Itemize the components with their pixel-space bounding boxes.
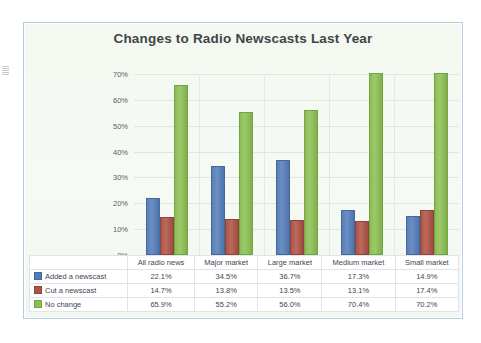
- plot-area: 0%10%20%30%40%50%60%70%: [134, 74, 459, 255]
- table-cell-value: 13.1%: [322, 284, 395, 298]
- table-column-header: Medium market: [322, 256, 395, 270]
- legend-entry: Added a newscast: [30, 270, 128, 284]
- table-row: Added a newscast22.1%34.5%36.7%17.3%14.9…: [30, 270, 459, 284]
- table-cell-value: 17.4%: [395, 284, 458, 298]
- legend-label: No change: [45, 300, 81, 309]
- bar-group: [199, 74, 264, 255]
- bar: [225, 219, 239, 255]
- bar: [146, 198, 160, 255]
- y-axis-tick-label: 70%: [113, 70, 128, 79]
- table-cell-value: 17.3%: [322, 270, 395, 284]
- table-body: Added a newscast22.1%34.5%36.7%17.3%14.9…: [30, 270, 459, 312]
- y-axis-tick-label: 50%: [113, 121, 128, 130]
- bar: [434, 73, 448, 255]
- scan-artifact: [2, 66, 9, 75]
- legend-label: Cut a newscast: [45, 286, 96, 295]
- bar-groups: [134, 74, 459, 255]
- table-column-header: All radio news: [128, 256, 195, 270]
- table-column-header: Major market: [195, 256, 258, 270]
- bar: [290, 220, 304, 255]
- y-axis-tick-label: 10%: [113, 225, 128, 234]
- y-axis-tick-label: 40%: [113, 147, 128, 156]
- chart-title: Changes to Radio Newscasts Last Year: [24, 31, 462, 46]
- bar: [276, 160, 290, 255]
- bar: [160, 217, 174, 255]
- bar: [341, 210, 355, 255]
- table-cell-value: 34.5%: [195, 270, 258, 284]
- bar: [420, 210, 434, 255]
- bar: [406, 216, 420, 255]
- bar: [239, 112, 253, 255]
- y-axis-tick-label: 60%: [113, 95, 128, 104]
- table-cell-value: 13.8%: [195, 284, 258, 298]
- bar: [355, 221, 369, 255]
- y-axis-tick-label: 30%: [113, 173, 128, 182]
- bar: [304, 110, 318, 255]
- chart-data-table: All radio newsMajor marketLarge marketMe…: [29, 255, 459, 312]
- table-cell-value: 70.2%: [395, 298, 458, 312]
- table-cell-value: 14.7%: [128, 284, 195, 298]
- legend-entry: No change: [30, 298, 128, 312]
- table-cell-value: 22.1%: [128, 270, 195, 284]
- bar-group: [394, 74, 459, 255]
- bar: [369, 73, 383, 255]
- legend-swatch-icon: [34, 300, 42, 308]
- table-column-header: Small market: [395, 256, 458, 270]
- table-row: Cut a newscast14.7%13.8%13.5%13.1%17.4%: [30, 284, 459, 298]
- legend-entry: Cut a newscast: [30, 284, 128, 298]
- y-axis-tick-label: 20%: [113, 199, 128, 208]
- table-corner-cell: [30, 256, 128, 270]
- bar: [174, 85, 188, 255]
- legend-swatch-icon: [34, 286, 42, 294]
- legend-label: Added a newscast: [45, 272, 106, 281]
- table-column-header: Large market: [258, 256, 322, 270]
- table-cell-value: 13.5%: [258, 284, 322, 298]
- table-cell-value: 36.7%: [258, 270, 322, 284]
- legend-swatch-icon: [34, 272, 42, 280]
- bar-group: [329, 74, 394, 255]
- table-cell-value: 56.0%: [258, 298, 322, 312]
- chart-frame: Changes to Radio Newscasts Last Year 0%1…: [23, 22, 463, 319]
- bar-group: [134, 74, 199, 255]
- table-cell-value: 55.2%: [195, 298, 258, 312]
- chart-screenshot: Changes to Radio Newscasts Last Year 0%1…: [0, 0, 481, 343]
- table-row: No change65.9%55.2%56.0%70.4%70.2%: [30, 298, 459, 312]
- table-header-row: All radio newsMajor marketLarge marketMe…: [30, 256, 459, 270]
- table-cell-value: 70.4%: [322, 298, 395, 312]
- table-cell-value: 14.9%: [395, 270, 458, 284]
- table-cell-value: 65.9%: [128, 298, 195, 312]
- bar-group: [264, 74, 329, 255]
- bar: [211, 166, 225, 255]
